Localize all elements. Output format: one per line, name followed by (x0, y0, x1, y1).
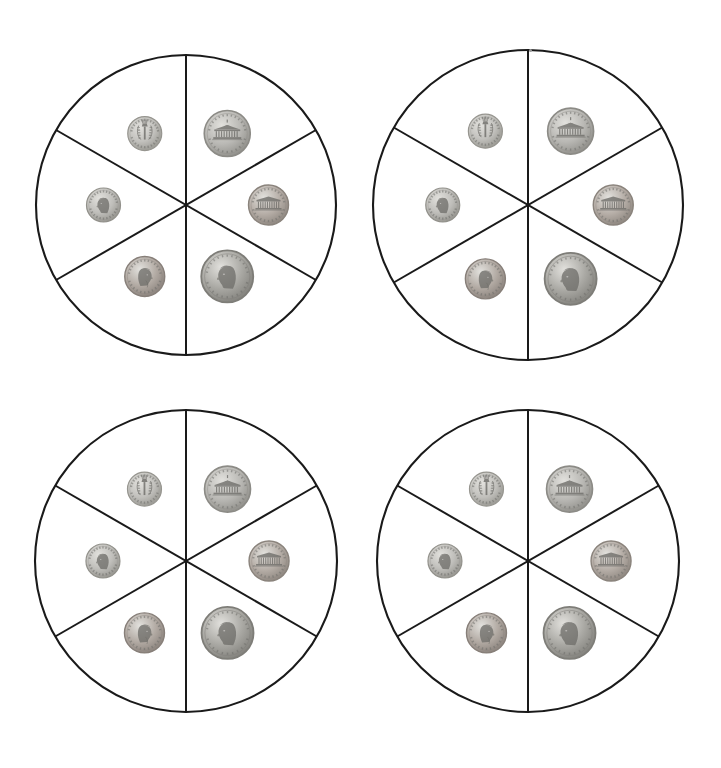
spinner-sector-coin-4[interactable] (124, 613, 164, 653)
spinner-sector-coin-0[interactable] (204, 111, 250, 157)
spinner-sector-coin-5[interactable] (544, 607, 596, 659)
spinner-sector-coin-3[interactable] (249, 185, 289, 225)
worksheet-canvas (0, 0, 721, 768)
spinner-svg (30, 49, 342, 361)
spinner-sector-coin-4[interactable] (465, 259, 505, 299)
spinner-sector-coin-5[interactable] (202, 607, 254, 659)
spinner-sector-coin-3[interactable] (593, 185, 633, 225)
spinner-sector-coin-0[interactable] (205, 466, 251, 512)
spinner-bottom-left[interactable] (29, 404, 343, 718)
spinner-sector-coin-0[interactable] (548, 108, 594, 154)
spinner-svg (29, 404, 343, 718)
scan-speck (529, 49, 532, 52)
spinner-bottom-right[interactable] (371, 404, 685, 718)
spinner-svg (367, 44, 689, 366)
spinner-sector-coin-2[interactable] (86, 544, 120, 578)
spinner-sector-coin-1[interactable] (469, 472, 503, 506)
spinner-sector-coin-2[interactable] (428, 544, 462, 578)
spinner-sector-coin-3[interactable] (249, 541, 289, 581)
spinner-sector-coin-4[interactable] (466, 613, 506, 653)
spinner-svg (371, 404, 685, 718)
spinner-sector-coin-5[interactable] (545, 253, 597, 305)
spinner-sector-coin-1[interactable] (468, 114, 502, 148)
spinner-sector-coin-0[interactable] (547, 466, 593, 512)
spinner-sector-coin-1[interactable] (127, 472, 161, 506)
spinner-top-left[interactable] (30, 49, 342, 361)
spinner-sector-coin-3[interactable] (591, 541, 631, 581)
spinner-sector-coin-1[interactable] (128, 117, 162, 151)
spinner-sector-coin-5[interactable] (201, 250, 253, 302)
spinner-sector-coin-2[interactable] (87, 188, 121, 222)
spinner-top-right[interactable] (367, 44, 689, 366)
spinner-sector-coin-4[interactable] (125, 256, 165, 296)
spinner-sector-coin-2[interactable] (426, 188, 460, 222)
